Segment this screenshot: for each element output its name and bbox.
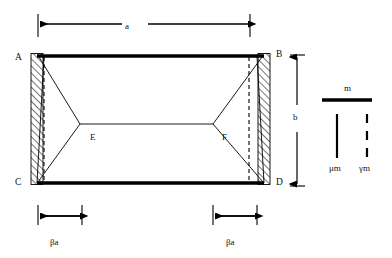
hatch-band-left <box>31 54 43 185</box>
node-label-E: E <box>90 133 96 142</box>
yield-line-A-E <box>39 57 80 124</box>
corner-label-B: B <box>276 50 282 59</box>
diagram-canvas <box>0 0 392 258</box>
corner-label-A: A <box>15 53 22 62</box>
dashed-reference-lines <box>44 57 249 182</box>
dimension-beta-a-left <box>38 205 82 225</box>
yield-line-pattern <box>38 57 263 182</box>
legend-label-m: m <box>344 84 351 93</box>
slab-outline <box>37 56 264 183</box>
dimension-a <box>38 14 250 37</box>
dimension-beta-a-left-label: βa <box>50 238 59 247</box>
corner-label-D: D <box>276 178 283 187</box>
legend-label-gamma-m: γm <box>359 164 370 173</box>
figure-container: a A B C D E F b βa βa m μm γm <box>0 0 392 258</box>
yield-line-C-E <box>38 124 80 182</box>
dimension-beta-a-right <box>213 205 257 225</box>
dimension-a-label: a <box>125 22 129 31</box>
corner-label-C: C <box>15 178 21 187</box>
legend-label-mu-m: μm <box>329 164 341 173</box>
node-label-F: F <box>222 133 227 142</box>
yield-line-D-F <box>213 124 263 182</box>
legend-swatches <box>322 100 372 158</box>
dimension-beta-a-right-label: βa <box>226 238 235 247</box>
hatch-band-right <box>258 54 270 185</box>
dimension-b-label: b <box>293 113 298 122</box>
yield-line-B-F <box>213 57 262 124</box>
